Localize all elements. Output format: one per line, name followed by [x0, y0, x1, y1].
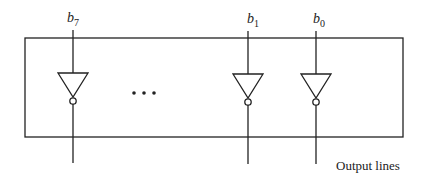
enclosure-box [25, 38, 403, 137]
ellipsis [132, 91, 156, 95]
output-lines-caption: Output lines [336, 158, 400, 173]
input-label-b1: b1 [247, 11, 259, 29]
inverter-gate-b7: b7 [58, 10, 88, 163]
input-label-b7: b7 [67, 10, 79, 28]
inverter-gate-b1: b1 [233, 11, 263, 164]
inverter-array-diagram: b7 b1 b0 Output lines [0, 0, 423, 179]
input-label-b0: b0 [313, 11, 325, 29]
inverter-gate-b0: b0 [301, 11, 331, 164]
